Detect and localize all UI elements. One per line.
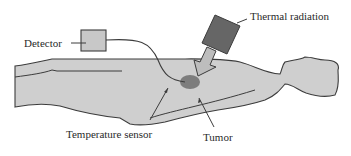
detector-box <box>81 30 106 51</box>
temperature-sensor-label: Temperature sensor <box>66 129 152 140</box>
tumor-label: Tumor <box>203 132 233 143</box>
body-outline <box>15 57 338 125</box>
detector-label: Detector <box>24 38 62 49</box>
human-body <box>15 57 338 134</box>
thermal-leader-line <box>237 19 247 23</box>
thermal-radiation-label: Thermal radiation <box>250 11 329 22</box>
thermal-therapy-diagram: Detector Thermal radiation Temperature s… <box>0 0 351 156</box>
